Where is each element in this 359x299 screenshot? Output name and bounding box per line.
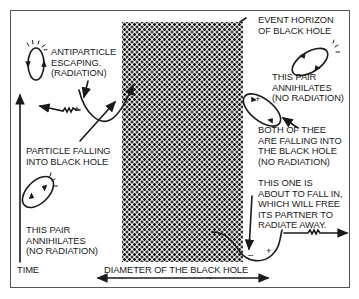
pair-trajectory-horizon [212,230,282,261]
both-falling-label: BOTH OF THEE ARE FALLING INTO THE BLACK … [258,125,342,167]
pair-loop-bottom-left [17,171,59,213]
particle-falling-label: PARTICLE FALLING INTO BLACK HOLE [26,146,111,167]
plus-sign-left: + [74,104,79,115]
plus-sign-horizon: + [255,94,260,105]
antiparticle-label: ANTIPARTICLE ESCAPING. (RADIATION) [51,47,116,79]
pair-loop-top-left [28,48,44,80]
radiation-squiggle-left [40,106,76,112]
pair-bottom-left-label: THIS PAIR ANNIHILATES (NO RADIATION) [26,225,98,257]
minus-sign: – [248,250,253,261]
time-axis-label: TIME [17,265,39,276]
event-horizon-label: EVENT HORIZON OF BLACK HOLE [258,15,334,36]
about-to-fall-label: THIS ONE IS ABOUT TO FALL IN, WHICH WILL… [258,178,342,231]
plus-sign-right: + [266,246,271,257]
diameter-label: DIAMETER OF THE BLACK HOLE [104,265,248,276]
pair-trajectory-falling [79,85,133,121]
pair-top-right-label: THIS PAIR ANNIHILATES (NO RADIATION) [272,72,344,104]
